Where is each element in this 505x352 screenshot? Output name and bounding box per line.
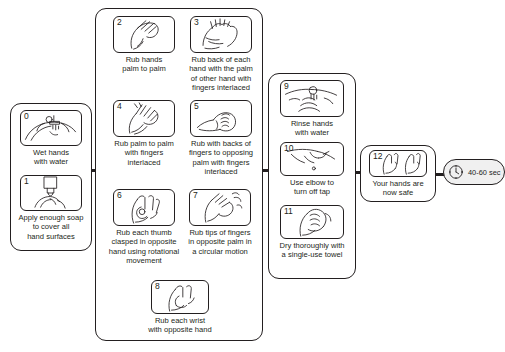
- rinse-hands-icon: [281, 81, 343, 116]
- step-6-number: 6: [117, 190, 122, 201]
- step-1-illustration: 1: [20, 175, 82, 211]
- step-12[interactable]: 12 Your hands are now safe: [363, 150, 433, 198]
- step-6-caption: Rub each thumb clasped in opposite hand …: [103, 228, 185, 266]
- step-5-illustration: 5: [190, 100, 252, 137]
- step-9-illustration: 9: [280, 80, 344, 117]
- step-6-illustration: 6: [113, 189, 175, 226]
- step-4-caption: Rub palm to palm with fingers interlaced: [104, 139, 184, 167]
- back-of-hand-icon: [191, 17, 251, 52]
- step-8-caption: Rub each wrist with opposite hand: [140, 316, 220, 335]
- backs-of-fingers-icon: [191, 101, 251, 136]
- step-4-illustration: 4: [113, 100, 175, 137]
- step-11-number: 11: [284, 206, 293, 217]
- step-7-caption: Rub tips of fingers in opposite palm in …: [180, 228, 260, 256]
- wet-hands-under-tap-icon: [21, 111, 81, 145]
- palm-to-palm-icon: [114, 17, 174, 52]
- step-5-number: 5: [194, 101, 199, 112]
- duration-badge: 40-60 sec: [443, 159, 505, 185]
- step-10[interactable]: 10 Use elbow to turn off tap: [272, 142, 352, 197]
- step-8-number: 8: [155, 281, 160, 292]
- step-5-caption: Rub with backs of fingers to opposing pa…: [181, 139, 261, 177]
- step-6[interactable]: 6 Rub each thumb clasped in opposite han…: [103, 189, 185, 266]
- step-1-number: 1: [24, 176, 29, 187]
- step-8-illustration: 8: [151, 280, 209, 314]
- step-3-illustration: 3: [190, 16, 252, 53]
- step-1-caption: Apply enough soap to cover all hand surf…: [14, 213, 88, 241]
- step-10-number: 10: [284, 143, 293, 154]
- step-12-caption: Your hands are now safe: [363, 179, 433, 198]
- step-0[interactable]: 0 Wet hands with water: [14, 110, 88, 167]
- step-8[interactable]: 8 Rub each wrist with opposite hand: [140, 280, 220, 335]
- step-0-number: 0: [24, 111, 29, 122]
- step-0-caption: Wet hands with water: [14, 148, 88, 167]
- step-7-number: 7: [193, 190, 198, 201]
- step-4-number: 4: [117, 101, 122, 112]
- step-11-caption: Dry thoroughly with a single-use towel: [268, 241, 356, 260]
- step-2-number: 2: [117, 17, 122, 28]
- wrist-rub-icon: [152, 281, 208, 313]
- step-9[interactable]: 9 Rinse hands with water: [272, 80, 352, 138]
- duration-label: 40-60 sec: [468, 168, 500, 177]
- step-2-illustration: 2: [113, 16, 175, 53]
- step-7[interactable]: 7 Rub tips of fingers in opposite palm i…: [180, 189, 260, 256]
- step-12-illustration: 12: [369, 150, 427, 177]
- step-9-number: 9: [284, 81, 289, 92]
- step-3-number: 3: [194, 17, 199, 28]
- step-10-caption: Use elbow to turn off tap: [272, 178, 352, 197]
- thumb-rotation-icon: [114, 190, 174, 225]
- step-10-illustration: 10: [280, 142, 344, 176]
- step-2-caption: Rub hands palm to palm: [106, 55, 182, 74]
- step-11-illustration: 11: [280, 205, 344, 239]
- step-4[interactable]: 4 Rub palm to palm with fingers interlac…: [104, 100, 184, 167]
- step-3-caption: Rub back of each hand with the palm of o…: [183, 55, 259, 93]
- step-12-number: 12: [373, 151, 382, 162]
- step-1[interactable]: 1 Apply enough soap to cover all hand su…: [14, 175, 88, 241]
- soap-dispenser-icon: [21, 176, 81, 210]
- fingers-interlaced-icon: [114, 101, 174, 136]
- fingertips-circular-icon: [190, 190, 250, 225]
- step-5[interactable]: 5 Rub with backs of fingers to opposing …: [181, 100, 261, 177]
- step-0-illustration: 0: [20, 110, 82, 146]
- step-11[interactable]: 11 Dry thoroughly with a single-use towe…: [268, 205, 356, 260]
- step-7-illustration: 7: [189, 189, 251, 226]
- clock-icon: [447, 163, 465, 181]
- step-9-caption: Rinse hands with water: [272, 119, 352, 138]
- step-3[interactable]: 3 Rub back of each hand with the palm of…: [183, 16, 259, 93]
- step-2[interactable]: 2 Rub hands palm to palm: [106, 16, 182, 74]
